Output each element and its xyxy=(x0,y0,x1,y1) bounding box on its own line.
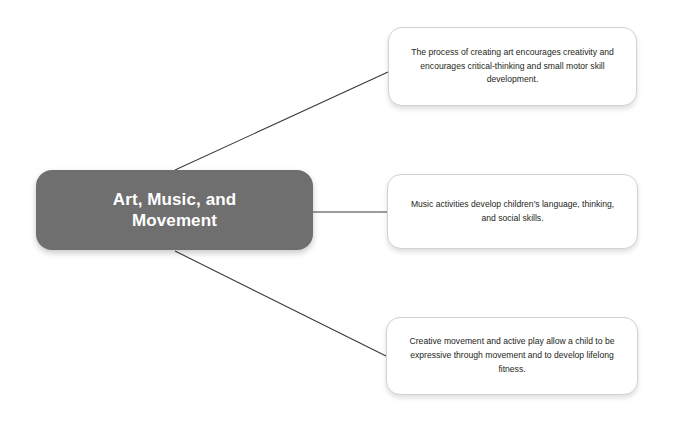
branch-node-art[interactable]: The process of creating art encourages c… xyxy=(388,27,637,106)
branch-node-music-label: Music activities develop children's lang… xyxy=(406,198,619,226)
connector-root-to-movement xyxy=(175,251,386,356)
branch-node-movement[interactable]: Creative movement and active play allow … xyxy=(386,317,638,395)
root-node-label: Art, Music, and Movement xyxy=(113,189,236,232)
mind-map-diagram: Art, Music, and Movement The process of … xyxy=(0,0,673,425)
branch-node-art-label: The process of creating art encourages c… xyxy=(407,46,618,88)
connector-root-to-art xyxy=(175,72,388,170)
root-node-art-music-movement[interactable]: Art, Music, and Movement xyxy=(36,170,313,250)
branch-node-movement-label: Creative movement and active play allow … xyxy=(405,335,619,377)
branch-node-music[interactable]: Music activities develop children's lang… xyxy=(387,174,638,249)
